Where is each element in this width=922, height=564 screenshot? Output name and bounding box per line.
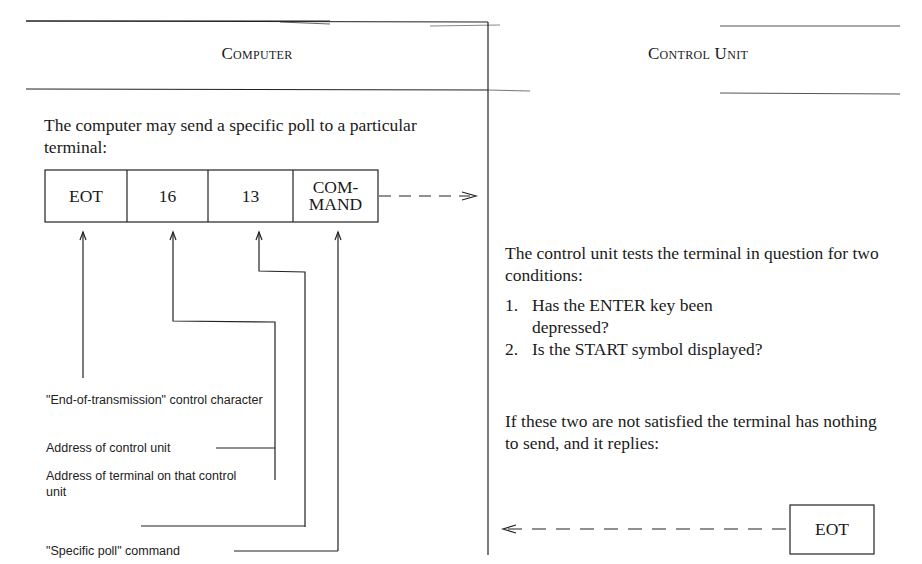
column-header-control-unit: Control Unit — [488, 44, 908, 64]
annotation-eot: "End-of-transmission" control character — [46, 392, 266, 408]
control-unit-outcome-text: If these two are not satisfied the termi… — [505, 410, 887, 454]
computer-intro-text: The computer may send a specific poll to… — [44, 114, 476, 158]
annotation-control-unit-address: Address of control unit — [46, 440, 246, 456]
conditions-list: 1. Has the ENTER key been depressed? 2. … — [505, 294, 885, 360]
poll-message: EOT 16 13 COM- MAND — [45, 170, 378, 222]
column-header-computer: Computer — [26, 44, 488, 64]
field-terminal-address: 13 — [208, 170, 293, 222]
condition-number: 1. — [505, 294, 532, 338]
field-eot: EOT — [45, 170, 127, 222]
annotation-specific-poll-command: "Specific poll" command — [46, 543, 246, 559]
condition-item: 1. Has the ENTER key been depressed? — [505, 294, 885, 338]
field-control-unit-address: 16 — [127, 170, 208, 222]
condition-text: Has the ENTER key been depressed? — [532, 294, 732, 338]
annotation-terminal-address: Address of terminal on that control unit — [46, 468, 246, 500]
condition-item: 2. Is the START symbol displayed? — [505, 338, 885, 360]
reply-field-eot: EOT — [790, 505, 874, 554]
field-command: COM- MAND — [293, 170, 378, 222]
control-unit-intro-text: The control unit tests the terminal in q… — [505, 242, 885, 286]
condition-number: 2. — [505, 338, 532, 360]
condition-text: Is the START symbol displayed? — [532, 338, 872, 360]
